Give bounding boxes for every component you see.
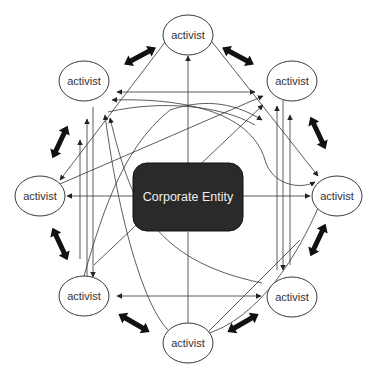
activist-node-top: activist <box>163 15 213 55</box>
double-arrow-icon <box>115 309 152 337</box>
double-arrow-icon <box>219 42 256 69</box>
activist-label: activist <box>67 75 101 87</box>
activist-node-top-right: activist <box>267 61 317 101</box>
activist-node-bottom: activist <box>163 323 213 363</box>
activist-label: activist <box>171 29 205 41</box>
activist-label: activist <box>23 190 57 202</box>
double-arrow-icon <box>47 123 73 161</box>
activist-label: activist <box>275 291 309 303</box>
activist-label: activist <box>320 190 354 202</box>
activist-node-bottom-left: activist <box>59 276 109 316</box>
activist-node-left: activist <box>15 176 65 216</box>
activist-node-top-left: activist <box>59 61 109 101</box>
double-arrow-icon <box>121 42 158 69</box>
corporate-entity-node: Corporate Entity <box>133 163 243 231</box>
activist-label: activist <box>67 290 101 302</box>
double-arrow-icon <box>305 114 331 152</box>
activist-network-diagram: Corporate Entity activist activist activ… <box>0 0 375 374</box>
double-arrow-icon <box>305 221 331 259</box>
activist-label: activist <box>171 337 205 349</box>
corporate-entity-label: Corporate Entity <box>143 190 234 204</box>
double-arrow-icon <box>47 225 73 263</box>
activist-label: activist <box>275 75 309 87</box>
activist-node-bottom-right: activist <box>267 277 317 317</box>
activist-node-right: activist <box>312 176 362 216</box>
